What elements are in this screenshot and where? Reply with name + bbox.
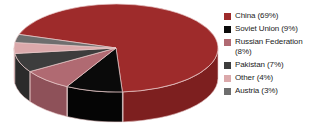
legend-item-label: Russian Federation (8%) [235,37,303,57]
legend-item[interactable]: Other (4%) [224,73,326,83]
legend-item[interactable]: Austria (3%) [224,86,326,96]
chart-legend: China (69%)Soviet Union (9%)Russian Fede… [224,11,326,99]
pie-chart-figure: China (69%)Soviet Union (9%)Russian Fede… [0,0,326,139]
legend-item[interactable]: China (69%) [224,11,326,21]
legend-swatch-icon [224,75,231,82]
legend-item-label: Soviet Union (9%) [235,24,298,34]
legend-item[interactable]: Pakistan (7%) [224,60,326,70]
pie-chart-graphic [0,0,222,139]
legend-swatch-icon [224,13,231,20]
legend-item[interactable]: Soviet Union (9%) [224,24,326,34]
legend-item-label: Other (4%) [235,73,273,83]
legend-item-label: China (69%) [235,11,278,21]
pie-3d-svg [0,0,222,139]
legend-swatch-icon [224,39,231,46]
legend-item-label: Austria (3%) [235,86,278,96]
legend-item[interactable]: Russian Federation (8%) [224,37,326,57]
legend-item-label: Pakistan (7%) [235,60,284,70]
legend-swatch-icon [224,62,231,69]
legend-swatch-icon [224,88,231,95]
legend-swatch-icon [224,26,231,33]
